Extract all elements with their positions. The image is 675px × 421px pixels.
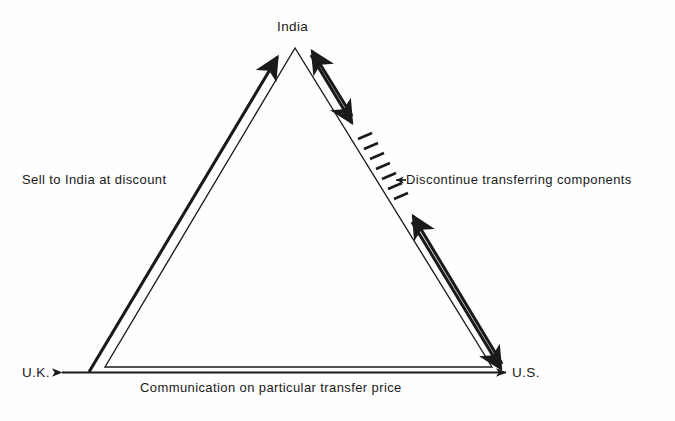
- edge-label-sell-to-india: Sell to India at discount: [22, 173, 166, 186]
- node-label-uk: U.K.: [22, 366, 50, 380]
- node-label-india: India: [277, 20, 308, 34]
- arrow-uk-to-india: [89, 57, 278, 372]
- arrow-india-to-us-shaft: [311, 55, 352, 123]
- triangle-outline: [105, 48, 492, 367]
- node-label-us: U.S.: [512, 366, 540, 380]
- arrow-us-to-india-lower-shaft: [413, 216, 502, 364]
- arrow-india-to-us-lower-shaft: [412, 222, 501, 369]
- arrow-us-to-india: [312, 51, 502, 364]
- diagram-canvas: India U.K. U.S. Sell to India at discoun…: [0, 0, 675, 421]
- diagram-vector-layer: [0, 0, 675, 421]
- edge-label-discontinue-transferring: Discontinue transferring components: [406, 173, 632, 186]
- edge-label-communication-transfer-price: Communication on particular transfer pri…: [140, 381, 402, 394]
- discontinue-hash-marks: [358, 133, 408, 199]
- arrow-us-to-india-shaft: [312, 51, 352, 116]
- arrow-india-to-us: [311, 55, 501, 369]
- arrow-uk-to-india-shaft: [89, 57, 278, 372]
- triangle-outline-path: [105, 48, 492, 367]
